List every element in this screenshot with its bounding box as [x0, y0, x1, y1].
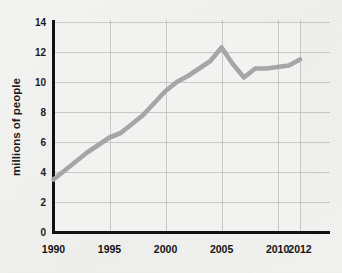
y-axis-tick-label: 14: [35, 17, 47, 28]
x-axis-tick-label: 2005: [210, 243, 234, 255]
plot-background: [53, 22, 300, 232]
y-axis-title-text: millions of people: [10, 78, 22, 176]
x-axis-tick-label: 1995: [98, 243, 122, 255]
x-axis-tick-label: 1990: [42, 243, 66, 255]
y-axis-tick-label: 2: [40, 197, 46, 208]
y-axis-tick-label: 0: [40, 227, 46, 238]
line-chart-canvas: 02468101214 199019952000200520102012 mil…: [0, 0, 342, 273]
x-axis-tick-label: 2000: [154, 243, 178, 255]
y-axis-tick-label: 8: [40, 107, 46, 118]
y-axis-tick-label: 10: [35, 77, 47, 88]
x-axis-tick-labels: 199019952000200520102012: [42, 243, 312, 255]
x-axis-tick-label: 2010: [266, 243, 290, 255]
chart-figure: 02468101214 199019952000200520102012 mil…: [0, 0, 342, 273]
y-axis-tick-label: 4: [40, 167, 46, 178]
y-axis-tick-labels: 02468101214: [35, 17, 47, 238]
y-axis-tick-label: 6: [40, 137, 46, 148]
y-axis-title: millions of people: [10, 78, 22, 176]
y-axis-tick-label: 12: [35, 47, 47, 58]
x-axis-tick-label: 2012: [288, 243, 312, 255]
